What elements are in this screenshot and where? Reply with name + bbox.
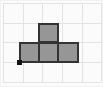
gridline-vertical-5 xyxy=(101,3,102,82)
origin-point xyxy=(17,60,22,65)
gridline-horizontal-4 xyxy=(3,82,101,83)
cell-bottom-right[interactable] xyxy=(57,42,79,63)
cell-bottom-left[interactable] xyxy=(19,42,40,63)
cell-bottom-center[interactable] xyxy=(38,42,59,63)
grid-plot-area xyxy=(0,0,103,87)
polyomino-figure xyxy=(0,0,103,87)
gridline-horizontal-0 xyxy=(3,3,101,4)
cell-top-center[interactable] xyxy=(38,23,59,43)
